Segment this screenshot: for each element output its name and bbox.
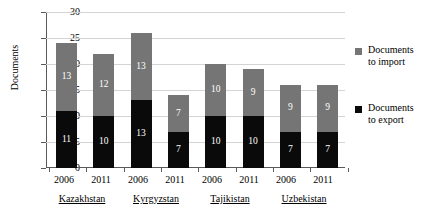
bar-value-label-import: 9 (288, 103, 293, 113)
x-country-label-uzbekistan: Uzbekistan (259, 193, 349, 204)
legend-label-import-line1: Documents (368, 44, 414, 56)
bar-segment-import[interactable]: 12 (93, 54, 114, 116)
bars-layer: 1311121013137710109109797 (46, 12, 345, 168)
legend-label-export-line1: Documents (368, 102, 414, 114)
bar-value-label-import: 10 (211, 85, 221, 95)
x-tick-8 (348, 168, 349, 172)
x-tick-2 (124, 168, 125, 172)
legend-swatch-import-icon (355, 48, 362, 55)
legend-item-documents-to-import[interactable]: Documents to import (355, 44, 414, 68)
bar-value-label-import: 9 (325, 103, 330, 113)
bar-value-label-export: 13 (136, 129, 146, 139)
legend-label-import-line2: to import (368, 56, 414, 68)
bar-kyrgyzstan-2006[interactable]: 1313 (131, 33, 152, 168)
bar-value-label-export: 10 (211, 137, 221, 147)
x-tick-1 (86, 168, 87, 172)
y-axis-title: Documents (9, 33, 20, 103)
bar-segment-export[interactable]: 7 (280, 132, 301, 168)
bar-uzbekistan-2011[interactable]: 97 (317, 85, 338, 168)
bar-segment-import[interactable]: 9 (317, 85, 338, 132)
bar-value-label-export: 7 (288, 145, 293, 155)
x-tick-0 (49, 168, 50, 172)
bar-segment-export[interactable]: 7 (168, 132, 189, 168)
bar-value-label-import: 7 (176, 109, 181, 119)
bar-segment-export[interactable]: 11 (56, 111, 77, 168)
plot-area: 1311121013137710109109797 (46, 12, 345, 168)
bar-tajikistan-2006[interactable]: 1010 (205, 64, 226, 168)
x-tick-7 (310, 168, 311, 172)
bar-uzbekistan-2006[interactable]: 97 (280, 85, 301, 168)
bar-segment-export[interactable]: 10 (205, 116, 226, 168)
x-tick-6 (273, 168, 274, 172)
stacked-bar-chart: Documents 30 25 20 15 10 5 0 13111210131… (0, 0, 431, 216)
bar-kyrgyzstan-2011[interactable]: 77 (168, 95, 189, 168)
bar-segment-export[interactable]: 13 (131, 100, 152, 168)
bar-segment-export[interactable]: 7 (317, 132, 338, 168)
bar-kazakhstan-2006[interactable]: 1311 (56, 43, 77, 168)
legend-label-import: Documents to import (368, 44, 414, 68)
legend-label-export-line2: to export (368, 114, 414, 126)
legend-label-export: Documents to export (368, 102, 414, 126)
bar-segment-import[interactable]: 9 (280, 85, 301, 132)
y-tick-mark-0 (41, 168, 46, 169)
bar-value-label-import: 12 (99, 80, 109, 90)
bar-segment-import[interactable]: 13 (56, 43, 77, 111)
x-tick-4 (198, 168, 199, 172)
bar-value-label-export: 7 (176, 145, 181, 155)
bar-segment-export[interactable]: 10 (243, 116, 264, 168)
x-tick-3 (161, 168, 162, 172)
bar-segment-import[interactable]: 9 (243, 69, 264, 116)
bar-value-label-export: 7 (325, 145, 330, 155)
bar-segment-export[interactable]: 10 (93, 116, 114, 168)
bar-segment-import[interactable]: 13 (131, 33, 152, 101)
bar-value-label-import: 9 (251, 88, 256, 98)
x-tick-5 (236, 168, 237, 172)
bar-value-label-export: 10 (99, 137, 109, 147)
legend-item-documents-to-export[interactable]: Documents to export (355, 102, 414, 126)
legend-swatch-export-icon (355, 106, 362, 113)
x-year-label-uzbekistan-2011: 2011 (301, 174, 345, 185)
bar-tajikistan-2011[interactable]: 910 (243, 69, 264, 168)
bar-value-label-import: 13 (62, 72, 72, 82)
bar-value-label-export: 10 (248, 137, 258, 147)
bar-value-label-export: 11 (62, 135, 71, 145)
bar-kazakhstan-2011[interactable]: 1210 (93, 54, 114, 168)
bar-value-label-import: 13 (136, 62, 146, 72)
bar-segment-import[interactable]: 7 (168, 95, 189, 131)
bar-segment-import[interactable]: 10 (205, 64, 226, 116)
